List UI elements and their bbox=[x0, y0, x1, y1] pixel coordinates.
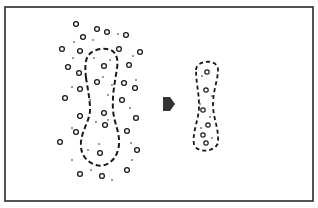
particle-concentration-diagram bbox=[0, 0, 318, 208]
particle-dot bbox=[73, 41, 75, 43]
diagram-frame bbox=[0, 0, 318, 208]
particle-dot bbox=[109, 59, 111, 61]
particle-dot bbox=[111, 179, 113, 181]
particle-dot bbox=[92, 39, 94, 41]
particle-dot bbox=[89, 99, 91, 101]
particle-dot bbox=[71, 86, 73, 88]
particle-dot bbox=[132, 55, 134, 57]
border-frame bbox=[5, 7, 313, 201]
particle-dot bbox=[111, 84, 113, 86]
particle-dot bbox=[98, 143, 100, 145]
particle-dot bbox=[209, 116, 211, 118]
particle-dot bbox=[211, 137, 213, 139]
particle-dot bbox=[131, 159, 133, 161]
particle-dot bbox=[107, 119, 109, 121]
particle-dot bbox=[71, 127, 73, 129]
particle-dot bbox=[129, 107, 131, 109]
particle-dot bbox=[95, 121, 97, 123]
particle-dot bbox=[135, 79, 137, 81]
particle-dot bbox=[199, 103, 201, 105]
particle-dot bbox=[72, 57, 74, 59]
particle-dot bbox=[102, 76, 104, 78]
particle-dot bbox=[200, 127, 202, 129]
particle-dot bbox=[117, 33, 119, 35]
particle-dot bbox=[130, 142, 132, 144]
particle-dot bbox=[71, 159, 73, 161]
particle-dot bbox=[201, 75, 203, 77]
particle-dot bbox=[93, 57, 95, 59]
particle-dot bbox=[90, 169, 92, 171]
particle-dot bbox=[107, 94, 109, 96]
particle-dot bbox=[87, 149, 89, 151]
particle-dot bbox=[211, 95, 213, 97]
